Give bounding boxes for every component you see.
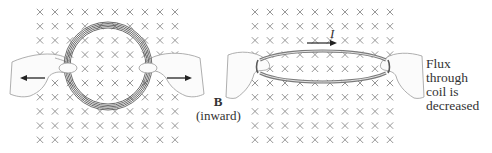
magnetic-field-grid-left xyxy=(37,9,178,143)
flux-caption-line: through xyxy=(426,71,479,85)
flux-caption-line: Flux xyxy=(426,57,479,71)
right-finger-icon xyxy=(139,63,157,73)
right-panel-right-hand-icon xyxy=(380,53,424,98)
field-label: B (inward) xyxy=(196,95,240,123)
flux-caption-line: decreased xyxy=(426,99,479,113)
left-finger-icon xyxy=(59,63,77,73)
current-label: I xyxy=(330,26,334,42)
field-symbol: B xyxy=(196,95,240,109)
field-direction: (inward) xyxy=(196,108,241,123)
left-hand-icon xyxy=(10,54,72,97)
right-hand-icon xyxy=(143,53,204,97)
flattened-coil xyxy=(257,51,390,82)
flux-caption: Flux through coil is decreased xyxy=(426,57,479,113)
circular-coil xyxy=(64,22,152,110)
flux-caption-line: coil is xyxy=(426,85,479,99)
diagram-canvas xyxy=(0,0,492,153)
